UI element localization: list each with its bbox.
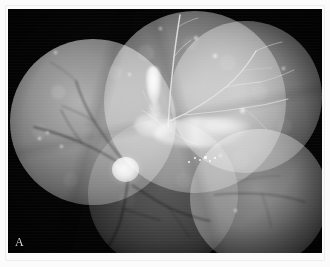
- figure-root: A: [0, 0, 330, 267]
- angiography-image: A: [8, 9, 322, 253]
- choroidal-mottling-texture: [8, 9, 322, 253]
- panel-label: A: [15, 236, 24, 248]
